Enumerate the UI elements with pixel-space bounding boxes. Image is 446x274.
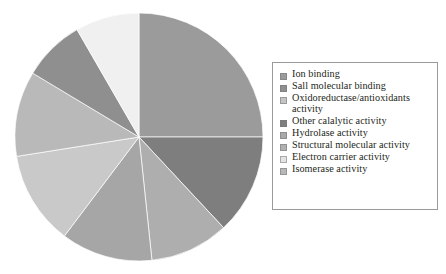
legend-swatch-icon (280, 73, 287, 80)
legend-item-label: Electron carrier activity (292, 152, 390, 163)
pie-slice[interactable] (139, 13, 263, 137)
pie-svg (14, 12, 264, 262)
legend-swatch-icon (280, 144, 287, 151)
legend-item[interactable]: Ion binding (280, 69, 432, 80)
legend-swatch-icon (280, 168, 287, 175)
legend-item[interactable]: Oxidoreductase/antioxidants activity (280, 93, 432, 115)
legend-item-label: Structural molecular activity (292, 140, 410, 151)
legend-item-label: Other calalytic activity (292, 116, 387, 127)
legend-item[interactable]: Structural molecular activity (280, 140, 432, 151)
legend-item[interactable]: Electron carrier activity (280, 152, 432, 163)
legend-item-label: Sall molecular binding (292, 81, 386, 92)
legend-item-label: Ion binding (292, 69, 340, 80)
legend-swatch-icon (280, 85, 287, 92)
legend-box: Ion binding Sall molecular binding Oxido… (272, 62, 438, 210)
pie-chart-area (14, 12, 264, 262)
legend-item[interactable]: Isomerase activity (280, 164, 432, 175)
legend-item[interactable]: Sall molecular binding (280, 81, 432, 92)
legend-item-label: Hydrolase activity (292, 128, 368, 139)
pie-chart-figure: Ion binding Sall molecular binding Oxido… (0, 0, 446, 274)
legend-item[interactable]: Other calalytic activity (280, 116, 432, 127)
legend-item-label: Isomerase activity (292, 164, 367, 175)
pie-slice-group (15, 13, 263, 261)
legend-swatch-icon (280, 156, 287, 163)
legend-swatch-icon (280, 132, 287, 139)
legend-swatch-icon (280, 120, 287, 127)
legend-item-label: Oxidoreductase/antioxidants activity (292, 93, 410, 115)
legend-swatch-icon (280, 97, 287, 104)
legend-item[interactable]: Hydrolase activity (280, 128, 432, 139)
